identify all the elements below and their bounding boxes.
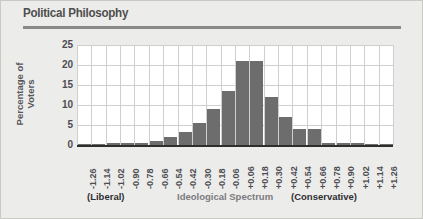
y-tick-label: 25: [41, 40, 73, 50]
x-tick-label: -0.06: [231, 145, 241, 189]
bar: [222, 91, 235, 145]
x-tick-label: +0.78: [332, 145, 342, 189]
bar: [279, 117, 292, 145]
x-tick-label: +0.18: [260, 145, 270, 189]
x-tick-label: +1.02: [361, 145, 371, 189]
x-tick-label: +0.42: [289, 145, 299, 189]
bar: [179, 132, 192, 145]
x-tick-label: +1.26: [389, 145, 399, 189]
page-title: Political Philosophy: [23, 5, 128, 20]
y-tick-label: 15: [41, 80, 73, 90]
y-tick-label: 5: [41, 120, 73, 130]
bar: [308, 129, 321, 145]
x-tick-label: +0.54: [303, 145, 313, 189]
x-tick-label: -1.14: [102, 145, 112, 189]
bar: [193, 123, 206, 145]
caption-liberal: (Liberal): [87, 191, 124, 203]
x-tick-label: -0.78: [145, 145, 155, 189]
x-tick-label: -0.18: [217, 145, 227, 189]
plot-area: [77, 45, 393, 145]
y-tick-label: 10: [41, 100, 73, 110]
x-tick-label: +0.30: [274, 145, 284, 189]
x-tick-label: +0.06: [246, 145, 256, 189]
bar: [236, 61, 249, 145]
x-tick-label: -0.66: [160, 145, 170, 189]
x-tick-label: +0.66: [318, 145, 328, 189]
x-tick-label: -0.42: [188, 145, 198, 189]
axis-captions: (Liberal) Ideological Spectrum (Conserva…: [1, 191, 423, 211]
x-tick-label: -1.26: [88, 145, 98, 189]
y-tick-label: 0: [41, 140, 73, 150]
y-tick-label: 20: [41, 60, 73, 70]
y-axis-title: Percentage of Voters: [14, 46, 36, 142]
bar-chart: Percentage of Voters 0510152025 -1.26-1.…: [1, 31, 423, 219]
bar: [265, 97, 278, 145]
gridline: [393, 45, 394, 145]
caption-conservative: (Conservative): [291, 191, 357, 203]
x-axis-label: Ideological Spectrum: [177, 191, 273, 203]
bar: [250, 61, 263, 145]
x-tick-label: -1.02: [116, 145, 126, 189]
x-axis-ticks: -1.26-1.14-1.02-0.90-0.78-0.66-0.54-0.42…: [77, 147, 393, 191]
chart-page: Political Philosophy Percentage of Voter…: [0, 0, 423, 219]
bar-series: [77, 45, 393, 145]
bar: [207, 109, 220, 145]
title-divider: [23, 26, 401, 29]
x-tick-label: +0.90: [346, 145, 356, 189]
bar: [293, 129, 306, 145]
x-tick-label: +1.14: [375, 145, 385, 189]
x-tick-label: -0.54: [174, 145, 184, 189]
x-tick-label: -0.90: [131, 145, 141, 189]
bar: [164, 137, 177, 145]
x-tick-label: -0.30: [203, 145, 213, 189]
y-axis-ticks: 0510152025: [41, 45, 73, 145]
